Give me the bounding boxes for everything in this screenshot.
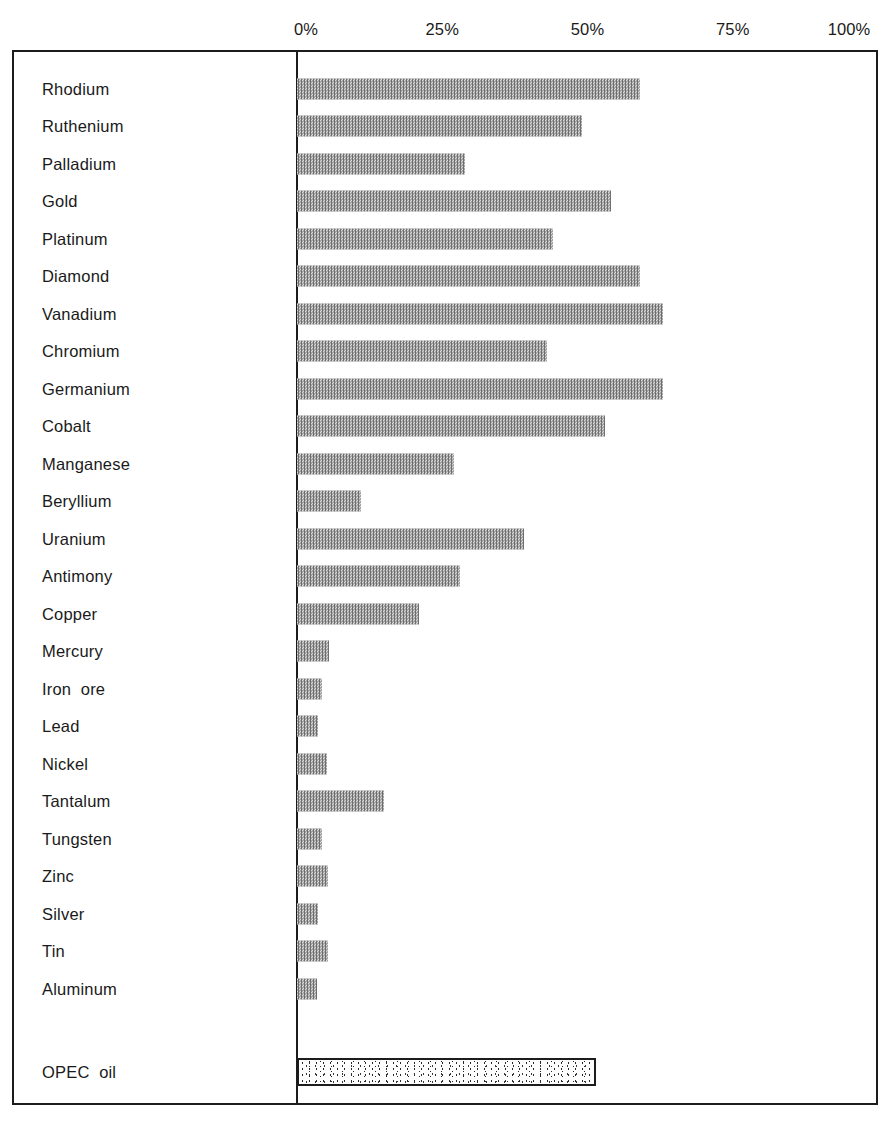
bar-row-label: Mercury: [42, 641, 103, 661]
bar-row: Beryllium: [0, 483, 895, 521]
bar-row: Nickel: [0, 745, 895, 783]
bar-row: Aluminum: [0, 970, 895, 1008]
bar-row: Chromium: [0, 333, 895, 371]
bar-fill: [297, 753, 327, 774]
bar-row: Zinc: [0, 858, 895, 896]
bar-row: Gold: [0, 183, 895, 221]
bar-fill: [297, 716, 318, 737]
bar-row: Diamond: [0, 258, 895, 296]
bar-row: Tin: [0, 933, 895, 971]
bar-fill: [297, 903, 318, 924]
bar-row: Manganese: [0, 445, 895, 483]
bar-row-label: Platinum: [42, 229, 108, 249]
bar-row: Antimony: [0, 558, 895, 596]
bar-row-label: Aluminum: [42, 979, 117, 999]
bar-fill: [297, 191, 611, 212]
bar-row: Tantalum: [0, 783, 895, 821]
horizontal-bar-chart: 0% 25% 50% 75% 100% RhodiumRutheniumPall…: [0, 0, 895, 1134]
bar-row-label: Diamond: [42, 266, 109, 286]
bar-row-label: Copper: [42, 604, 97, 624]
bar-row-label: Tin: [42, 941, 65, 961]
bar-row-label: Cobalt: [42, 416, 91, 436]
bar-row-label: Manganese: [42, 454, 130, 474]
bar-fill: [297, 791, 384, 812]
bar-row: Germanium: [0, 370, 895, 408]
bar-row: Ruthenium: [0, 108, 895, 146]
bar-fill: [297, 528, 524, 549]
bar-fill: [297, 641, 329, 662]
bar-row-label: Chromium: [42, 341, 120, 361]
bar-fill: [297, 416, 605, 437]
bar-row-label: Gold: [42, 191, 78, 211]
bar-fill: [297, 78, 640, 99]
bar-row-label: Tungsten: [42, 829, 112, 849]
bar-fill: [297, 491, 361, 512]
bar-row: Uranium: [0, 520, 895, 558]
bar-rows-container: RhodiumRutheniumPalladiumGoldPlatinumDia…: [0, 0, 895, 1134]
bar-row-label: Palladium: [42, 154, 116, 174]
bar-fill: [297, 678, 322, 699]
opec-oil-label: OPEC oil: [42, 1062, 116, 1082]
bar-fill: [297, 828, 322, 849]
bar-row: Platinum: [0, 220, 895, 258]
bar-row-label: Zinc: [42, 866, 74, 886]
bar-fill: [297, 341, 547, 362]
opec-oil-row: OPEC oil: [0, 1049, 895, 1095]
bar-row-label: Rhodium: [42, 79, 109, 99]
opec-oil-bar: [297, 1058, 596, 1086]
bar-row-label: Lead: [42, 716, 80, 736]
bar-fill: [297, 266, 640, 287]
bar-row: Palladium: [0, 145, 895, 183]
bar-row-label: Antimony: [42, 566, 112, 586]
bar-row: Rhodium: [0, 70, 895, 108]
bar-row: Copper: [0, 595, 895, 633]
bar-row: Lead: [0, 708, 895, 746]
bar-fill: [297, 116, 582, 137]
bar-row-label: Tantalum: [42, 791, 111, 811]
bar-row: Vanadium: [0, 295, 895, 333]
bar-row: Iron ore: [0, 670, 895, 708]
bar-fill: [297, 453, 454, 474]
bar-row-label: Beryllium: [42, 491, 112, 511]
bar-fill: [297, 603, 419, 624]
bar-row-label: Uranium: [42, 529, 106, 549]
bar-fill: [297, 866, 328, 887]
bar-row: Tungsten: [0, 820, 895, 858]
bar-row-label: Germanium: [42, 379, 130, 399]
bar-row: Silver: [0, 895, 895, 933]
bar-fill: [297, 941, 328, 962]
bar-fill: [297, 566, 460, 587]
bar-fill: [297, 228, 553, 249]
bar-row: Mercury: [0, 633, 895, 671]
bar-row-label: Nickel: [42, 754, 88, 774]
bar-fill: [297, 303, 663, 324]
bar-row-label: Silver: [42, 904, 84, 924]
bar-row: Cobalt: [0, 408, 895, 446]
bar-fill: [297, 153, 465, 174]
bar-fill: [297, 378, 663, 399]
bar-row-label: Iron ore: [42, 679, 105, 699]
bar-fill: [297, 978, 317, 999]
bar-row-label: Ruthenium: [42, 116, 124, 136]
bar-row-label: Vanadium: [42, 304, 117, 324]
